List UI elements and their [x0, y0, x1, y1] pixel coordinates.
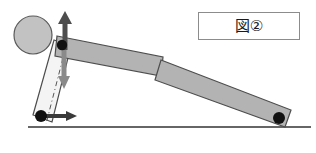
upper-pivot-dot [57, 40, 67, 50]
roller-wheel [14, 16, 52, 54]
lower-pivot-dot [35, 110, 47, 122]
arm-segment-lower [155, 60, 291, 127]
figure-caption-box: 図② [198, 12, 300, 40]
arm-segment-upper [55, 36, 163, 76]
figure-caption-text: 図② [235, 19, 263, 34]
end-pivot-dot [273, 112, 285, 124]
figure-canvas: 図② [0, 0, 316, 153]
